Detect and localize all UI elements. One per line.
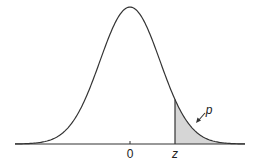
normal-curve: [15, 7, 245, 144]
p-label: p: [205, 103, 213, 117]
mean-label: 0: [127, 147, 134, 161]
arrow-icon: [196, 113, 205, 123]
z-label: z: [171, 147, 178, 161]
normal-distribution-figure: 0 z p: [0, 0, 254, 165]
